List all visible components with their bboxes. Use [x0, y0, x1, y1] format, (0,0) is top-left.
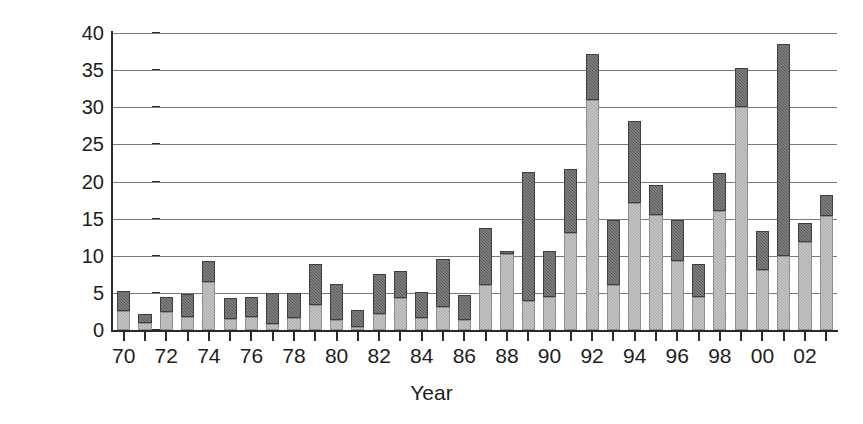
bar-71 [138, 314, 151, 330]
gridline [113, 219, 837, 220]
bar-91 [564, 169, 577, 330]
bar-segment-upper [138, 314, 151, 324]
x-tick-mark [357, 332, 359, 341]
bar-segment-upper [309, 264, 322, 305]
y-tick-label: 0 [58, 319, 104, 342]
bar-segment-lower [138, 323, 151, 330]
bar-00 [756, 231, 769, 330]
bar-segment-lower [394, 298, 407, 330]
bar-78 [287, 293, 300, 330]
bar-84 [415, 292, 428, 330]
bar-86 [458, 295, 471, 330]
bar-segment-lower [522, 301, 535, 330]
bar-segment-lower [798, 242, 811, 330]
x-tick-mark [485, 332, 487, 341]
x-tick-mark [314, 332, 316, 341]
bar-segment-lower [564, 233, 577, 330]
bar-segment-lower [649, 215, 662, 330]
bar-02 [798, 223, 811, 330]
plot-area [113, 33, 837, 330]
bar-segment-lower [543, 297, 556, 330]
x-tick-label: 02 [780, 344, 830, 368]
bar-79 [309, 264, 322, 330]
bar-segment-upper [820, 195, 833, 217]
x-tick-mark [144, 332, 146, 341]
x-tick-mark [336, 332, 338, 341]
y-tick-label: 15 [58, 207, 104, 230]
bar-03 [820, 195, 833, 330]
bar-94 [628, 121, 641, 330]
bar-segment-upper [436, 259, 449, 307]
bar-segment-lower [671, 261, 684, 330]
bar-segment-lower [436, 307, 449, 330]
bar-99 [735, 68, 748, 330]
bar-87 [479, 228, 492, 330]
bar-92 [586, 54, 599, 330]
x-tick-mark [570, 332, 572, 341]
x-tick-mark [655, 332, 657, 341]
y-tick-label: 20 [58, 170, 104, 193]
gridline [113, 293, 837, 294]
y-tick-label: 40 [58, 22, 104, 45]
bar-segment-upper [373, 274, 386, 313]
bar-segment-lower [160, 312, 173, 330]
bar-segment-upper [628, 121, 641, 203]
bar-segment-upper [224, 298, 237, 319]
x-tick-mark [399, 332, 401, 341]
x-tick-mark [378, 332, 380, 341]
bar-segment-lower [713, 211, 726, 330]
bar-81 [351, 310, 364, 330]
y-tick-label: 35 [58, 59, 104, 82]
y-tick-label: 5 [58, 281, 104, 304]
bar-segment-upper [586, 54, 599, 100]
x-tick-mark [463, 332, 465, 341]
x-tick-mark [719, 332, 721, 341]
bar-segment-upper [671, 220, 684, 261]
gridline [113, 144, 837, 145]
bar-segment-upper [777, 44, 790, 256]
bar-segment-lower [287, 318, 300, 330]
x-tick-mark [783, 332, 785, 341]
bar-75 [224, 298, 237, 330]
bar-segment-lower [181, 317, 194, 330]
x-tick-mark [229, 332, 231, 341]
bar-82 [373, 274, 386, 330]
x-tick-mark [698, 332, 700, 341]
x-tick-mark [591, 332, 593, 341]
bar-segment-lower [756, 270, 769, 330]
bar-segment-upper [394, 271, 407, 298]
x-tick-mark [612, 332, 614, 341]
y-axis-ticks: 0510152025303540 [48, 33, 104, 330]
bar-93 [607, 220, 620, 330]
bar-segment-upper [564, 169, 577, 233]
x-tick-mark [293, 332, 295, 341]
bar-segment-upper [351, 310, 364, 327]
x-tick-mark [740, 332, 742, 341]
bar-segment-upper [479, 228, 492, 286]
gridline [113, 182, 837, 183]
bar-segment-upper [287, 293, 300, 318]
x-tick-mark [208, 332, 210, 341]
x-tick-mark [634, 332, 636, 341]
bar-74 [202, 261, 215, 330]
x-tick-mark [272, 332, 274, 341]
x-tick-mark [761, 332, 763, 341]
bar-segment-lower [820, 216, 833, 330]
bar-segment-upper [649, 185, 662, 215]
x-tick-mark [250, 332, 252, 341]
y-axis-line [111, 31, 113, 332]
bar-segment-lower [309, 305, 322, 330]
x-tick-mark [187, 332, 189, 341]
bar-72 [160, 297, 173, 330]
x-tick-mark [804, 332, 806, 341]
x-tick-mark [123, 332, 125, 341]
bar-segment-upper [522, 172, 535, 301]
bar-segment-lower [117, 311, 130, 330]
bar-segment-lower [586, 100, 599, 330]
bar-88 [500, 251, 513, 330]
bar-segment-upper [458, 295, 471, 320]
x-axis-line [111, 330, 838, 332]
bar-95 [649, 185, 662, 330]
x-axis-label: Year [0, 381, 863, 405]
bar-segment-lower [330, 320, 343, 330]
